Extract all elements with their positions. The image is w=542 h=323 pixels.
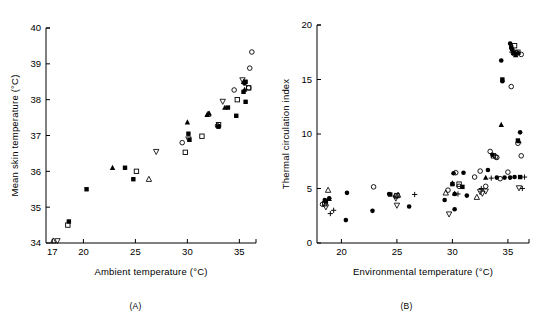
x-tick-label: 20 [78,246,89,257]
x-axis-title: Environmental temperature (°C) [353,266,493,277]
y-axis-title: Thermal circulation index [280,79,291,190]
panel-a: 343536373839401720253035Ambient temperat… [0,0,271,323]
x-axis-title: Ambient temperature (°C) [94,266,207,277]
x-tick-label: 25 [130,246,141,257]
y-tick-label: 40 [30,22,41,33]
panel-b: 0510152020253035Environmental temperatur… [271,0,542,323]
x-tick-label: 20 [336,246,347,257]
y-tick-label: 37 [30,130,41,141]
scatter-plot-b: 0510152020253035Environmental temperatur… [271,0,542,300]
y-tick-label: 10 [301,128,312,139]
y-tick-label: 34 [30,237,41,248]
x-tick-label: 30 [447,246,458,257]
y-tick-label: 39 [30,58,41,69]
figure-container: 343536373839401720253035Ambient temperat… [0,0,542,323]
panel-b-caption: (B) [271,301,542,311]
x-tick-label: 30 [182,246,193,257]
y-axis-title: Mean skin temperature (°C) [9,75,20,197]
x-tick-label: 35 [503,246,514,257]
x-tick-label: 25 [392,246,403,257]
data-points-group [51,50,255,244]
data-points-group [320,41,527,222]
y-tick-label: 0 [307,237,312,248]
y-tick-label: 5 [307,183,312,194]
y-tick-label: 38 [30,94,41,105]
y-tick-label: 20 [301,19,312,30]
y-tick-label: 36 [30,166,41,177]
scatter-plot-a: 343536373839401720253035Ambient temperat… [0,0,271,300]
x-tick-label: 35 [234,246,245,257]
y-tick-label: 35 [30,202,41,213]
panel-a-caption: (A) [0,301,271,311]
y-tick-label: 15 [301,74,312,85]
x-tick-label: 17 [47,246,58,257]
